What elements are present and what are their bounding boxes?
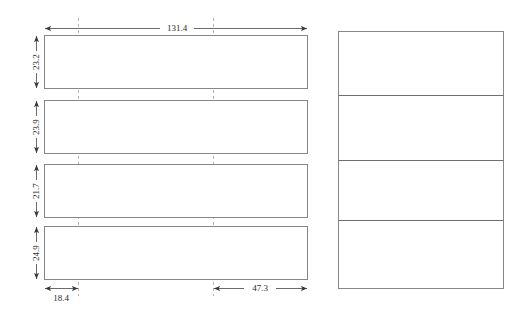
dimension-bottom-left-offset-label: 18.4 bbox=[53, 293, 69, 303]
dimension-height-1-label: 23.2 bbox=[31, 54, 41, 70]
dimension-overall-width-label: 131.4 bbox=[167, 23, 188, 33]
dimension-bottom-right-offset-label: 47.3 bbox=[252, 283, 268, 293]
dimension-height-3: 21.7 bbox=[31, 165, 42, 217]
left-panel-2 bbox=[45, 101, 308, 154]
dimension-height-3-label: 21.7 bbox=[31, 183, 41, 199]
left-panel-stack bbox=[45, 36, 308, 280]
dimension-height-2-label: 23.9 bbox=[31, 119, 41, 135]
dimension-height-4-label: 24.9 bbox=[31, 245, 41, 261]
dimension-height-2: 23.9 bbox=[31, 101, 42, 153]
left-panel-3 bbox=[45, 165, 308, 218]
dimension-overall-width: 131.4 bbox=[45, 23, 307, 34]
technical-drawing: 131.4 23.2 23.9 21.7 24.9 18.4 bbox=[0, 0, 532, 320]
dimension-bottom-left-offset: 18.4 bbox=[45, 289, 78, 304]
dimension-bottom-right-offset: 47.3 bbox=[214, 283, 307, 294]
left-panel-4 bbox=[45, 227, 308, 280]
dimension-height-1: 23.2 bbox=[31, 36, 42, 88]
left-panel-1 bbox=[45, 36, 308, 89]
diagram-canvas: 131.4 23.2 23.9 21.7 24.9 18.4 bbox=[0, 0, 532, 320]
right-panel-stack bbox=[339, 32, 504, 289]
dimension-height-4: 24.9 bbox=[31, 227, 42, 279]
